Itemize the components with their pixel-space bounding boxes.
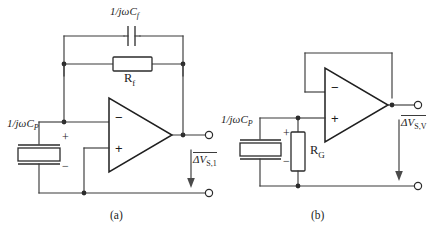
terminal-a-output [205,131,212,138]
gain-resistor-label: RG [310,144,325,160]
source-capacitor-a-plus: + [62,131,69,143]
opamp-a-noninverting-sign: + [115,141,123,156]
node-b-noninverting [296,116,301,121]
source-capacitor-b-plus: + [283,127,290,139]
terminal-b-ground [414,182,421,189]
terminal-a-ground [205,189,212,196]
output-b-label: ΔVS,V [401,115,426,131]
feedback-capacitor-label: 1/jωCf [110,6,139,20]
capacitor-p-b-body [240,143,281,156]
subfigure-caption-b: (b) [311,210,324,222]
source-capacitor-a-minus: − [62,160,69,172]
resistor-g-body [291,132,305,171]
source-capacitor-b-label: 1/jωCP [221,114,253,128]
opamp-a-inverting-sign: − [115,110,123,125]
circuit-figure: 1/jωCf Rf 1/jωCP + − − + ΔVS,1 (a) 1/jωC… [0,0,440,231]
output-a-label: ΔVS,1 [193,152,217,168]
terminal-b-output [414,101,421,108]
node-b-ground [296,184,301,189]
subfigure-caption-a: (a) [110,210,123,222]
feedback-resistor-label: Rf [124,72,135,88]
opamp-b-noninverting-sign: + [331,111,339,126]
node-b-output [390,103,395,108]
circuit-schematic-canvas [0,0,440,231]
source-capacitor-a-label: 1/jωCP [7,118,39,132]
node-a-ground [82,191,87,196]
resistor-f-body [113,57,152,71]
arrow-a-head [187,178,195,188]
arrow-b-head [395,171,403,181]
capacitor-p-a-body [18,148,60,161]
source-capacitor-b-minus: − [283,155,290,167]
opamp-b-inverting-sign: − [331,80,339,95]
